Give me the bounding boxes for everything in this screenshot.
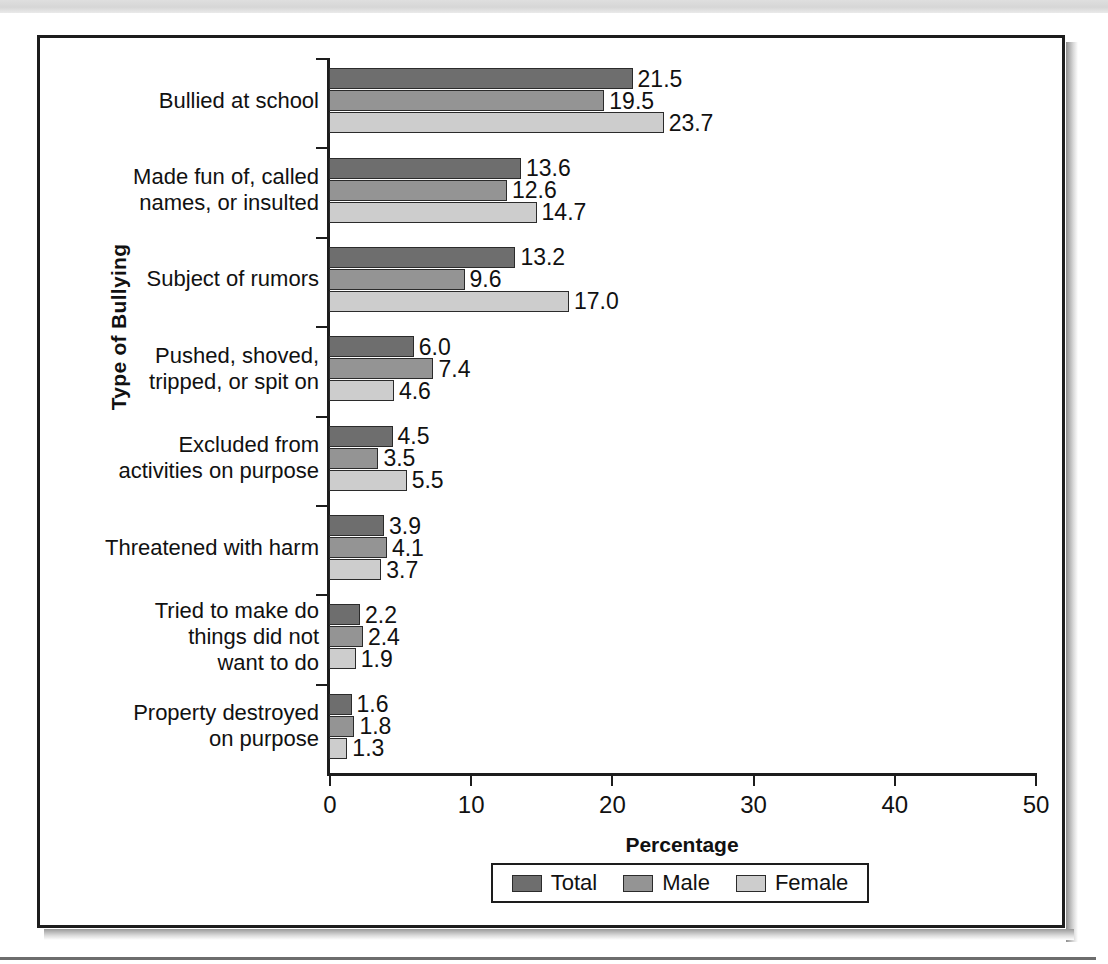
bar-male: 9.6: [329, 269, 465, 290]
category-label: Made fun of, called names, or insulted: [39, 164, 319, 216]
x-axis-tick: [470, 773, 472, 786]
legend-item-female: Female: [736, 870, 848, 896]
page-shadow-bottom: [44, 929, 1074, 940]
bar-value-label: 7.4: [438, 355, 470, 382]
bar-total: 21.5: [329, 68, 633, 89]
category-label: Pushed, shoved, tripped, or spit on: [39, 343, 319, 395]
legend-swatch-total: [512, 875, 542, 892]
legend-label-female: Female: [775, 870, 848, 896]
bar-group: Threatened with harm3.94.13.7: [329, 505, 1035, 594]
y-axis-tick: [316, 684, 328, 686]
bar-total: 4.5: [329, 426, 393, 447]
category-label: Subject of rumors: [39, 266, 319, 292]
y-axis-tick: [316, 147, 328, 149]
bar-value-label: 23.7: [669, 109, 714, 136]
legend-swatch-female: [736, 875, 766, 892]
bar-female: 1.9: [329, 648, 356, 669]
category-label: Excluded from activities on purpose: [39, 432, 319, 484]
bar-total: 13.2: [329, 247, 515, 268]
bar-group: Tried to make do things did not want to …: [329, 594, 1035, 683]
category-label: Property destroyed on purpose: [39, 700, 319, 752]
x-axis-tick: [611, 773, 613, 786]
bar-female: 17.0: [329, 291, 569, 312]
x-axis-tick-label: 50: [1001, 791, 1071, 819]
bar-female: 14.7: [329, 202, 537, 223]
bar-female: 3.7: [329, 559, 381, 580]
bar-group: Property destroyed on purpose1.61.81.3: [329, 684, 1035, 773]
bar-value-label: 3.7: [386, 556, 418, 583]
legend-swatch-male: [623, 875, 653, 892]
scan-top-band: [0, 0, 1108, 13]
legend-item-male: Male: [623, 870, 710, 896]
category-label: Tried to make do things did not want to …: [39, 598, 319, 676]
x-axis-tick: [329, 773, 331, 786]
category-label: Bullied at school: [39, 88, 319, 114]
y-axis-tick: [316, 416, 328, 418]
bar-male: 1.8: [329, 716, 354, 737]
bar-male: 7.4: [329, 358, 433, 379]
x-axis-tick-label: 0: [295, 791, 365, 819]
bar-female: 5.5: [329, 470, 407, 491]
bar-male: 3.5: [329, 448, 378, 469]
x-axis-tick: [1035, 773, 1037, 786]
y-axis-tick: [316, 594, 328, 596]
legend-label-male: Male: [662, 870, 710, 896]
y-axis-tick: [316, 58, 328, 60]
x-axis-tick-label: 30: [719, 791, 789, 819]
bar-value-label: 1.9: [361, 645, 393, 672]
x-axis-tick-label: 40: [860, 791, 930, 819]
y-axis-tick: [316, 326, 328, 328]
bar-value-label: 4.6: [399, 377, 431, 404]
bar-total: 3.9: [329, 515, 384, 536]
chart-legend: Total Male Female: [491, 863, 869, 903]
bar-male: 12.6: [329, 180, 507, 201]
bar-female: 23.7: [329, 112, 664, 133]
chart-frame: Type of Bullying 01020304050 Bullied at …: [37, 35, 1065, 928]
bar-value-label: 14.7: [542, 199, 587, 226]
bar-total: 2.2: [329, 604, 360, 625]
y-axis-tick: [316, 237, 328, 239]
bar-value-label: 9.6: [470, 266, 502, 293]
bar-total: 6.0: [329, 336, 414, 357]
bar-female: 1.3: [329, 738, 347, 759]
bar-male: 2.4: [329, 626, 363, 647]
category-label: Threatened with harm: [39, 535, 319, 561]
x-axis-tick-label: 10: [436, 791, 506, 819]
x-axis-title: Percentage: [329, 833, 1035, 857]
bar-value-label: 17.0: [574, 288, 619, 315]
bar-value-label: 13.2: [520, 244, 565, 271]
legend-item-total: Total: [512, 870, 597, 896]
bar-group: Pushed, shoved, tripped, or spit on6.07.…: [329, 326, 1035, 415]
legend-label-total: Total: [551, 870, 597, 896]
bar-value-label: 5.5: [412, 467, 444, 494]
bar-total: 1.6: [329, 694, 352, 715]
bar-group: Excluded from activities on purpose4.53.…: [329, 416, 1035, 505]
x-axis-tick-label: 20: [577, 791, 647, 819]
x-axis-line: [327, 773, 1036, 776]
bar-total: 13.6: [329, 158, 521, 179]
page-rule: [0, 957, 1096, 960]
bar-group: Made fun of, called names, or insulted13…: [329, 147, 1035, 236]
y-axis-title: Type of Bullying: [107, 212, 131, 442]
bar-male: 19.5: [329, 90, 604, 111]
bar-value-label: 19.5: [609, 87, 654, 114]
bar-female: 4.6: [329, 380, 394, 401]
x-axis-tick: [894, 773, 896, 786]
bar-value-label: 3.5: [383, 445, 415, 472]
bar-male: 4.1: [329, 537, 387, 558]
x-axis-tick: [753, 773, 755, 786]
y-axis-tick: [316, 505, 328, 507]
plot-area: 01020304050 Bullied at school21.519.523.…: [329, 58, 1035, 773]
bar-group: Subject of rumors13.29.617.0: [329, 237, 1035, 326]
bar-value-label: 1.3: [352, 735, 384, 762]
bar-group: Bullied at school21.519.523.7: [329, 58, 1035, 147]
